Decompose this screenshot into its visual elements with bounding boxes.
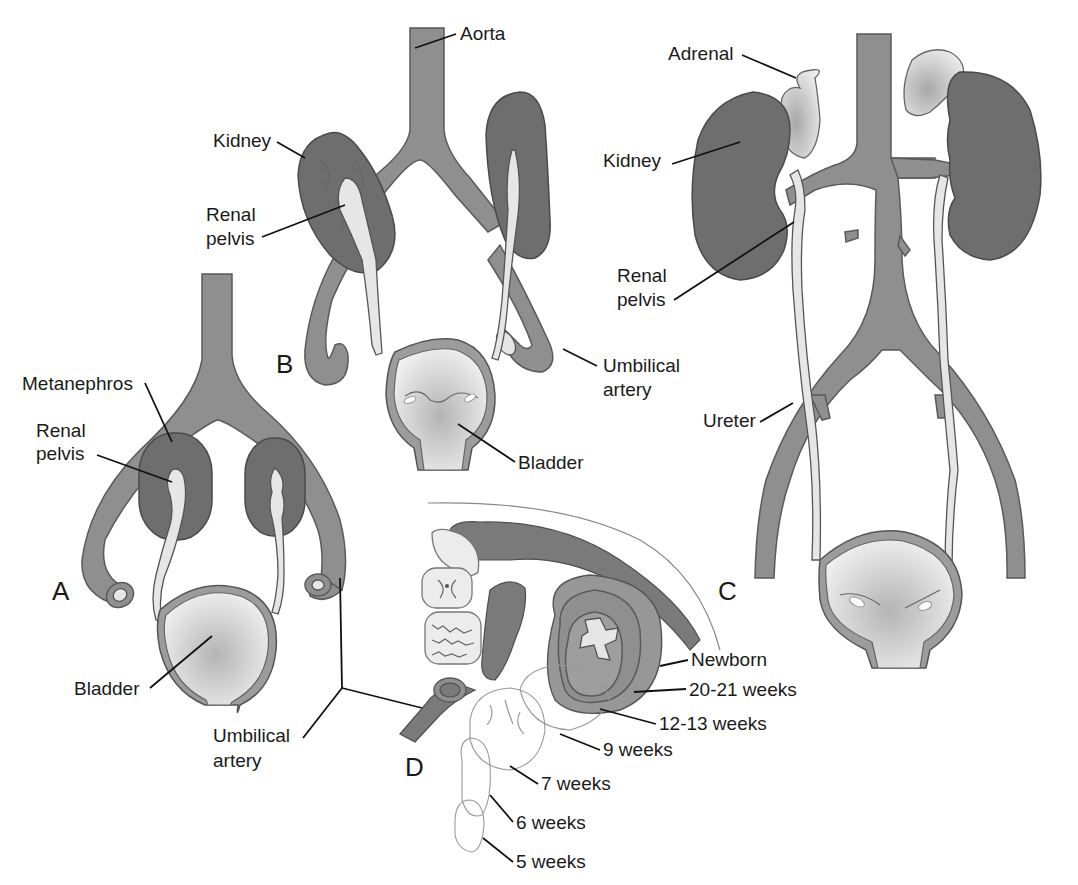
label-stage-12-13-weeks: 12-13 weeks [659,713,767,734]
panel-letter-a: A [52,576,70,606]
kidney-c-left [692,92,790,280]
ureter-c-left [790,170,820,560]
label-ureter: Ureter [703,410,756,431]
label-renal-pelvis-a-2: pelvis [36,443,85,464]
kidney-ascent-diagram: B Aorta Kidney Renal pelvis Umbilical ar… [0,0,1078,885]
label-adrenal: Adrenal [668,43,734,64]
aorta-a [82,274,346,605]
kidney-5-weeks [455,800,484,852]
umbilical-artery-b-left [305,255,352,385]
label-stage-6-weeks: 6 weeks [516,812,586,833]
vertebral-body [425,612,481,664]
label-aorta: Aorta [460,23,506,44]
panel-letter-d: D [405,752,424,782]
label-metanephros: Metanephros [22,373,133,394]
label-renal-pelvis-c-1: Renal [617,265,667,286]
bladder-b [386,339,495,470]
label-stage-7-weeks: 7 weeks [541,773,611,794]
label-bladder-b: Bladder [518,452,584,473]
label-stage-20-21-weeks: 20-21 weeks [689,679,797,700]
label-umbilical-artery-b-1: Umbilical [603,355,680,376]
label-umbilical-artery-b-2: artery [603,379,652,400]
label-renal-pelvis-c-2: pelvis [617,289,666,310]
bladder-c [819,531,962,668]
label-stage-9-weeks: 9 weeks [603,739,673,760]
label-kidney-c: Kidney [603,150,662,171]
label-bladder-a: Bladder [74,678,140,699]
label-renal-pelvis-b-2: pelvis [206,228,255,249]
label-umbilical-artery-a-2: artery [213,750,262,771]
panel-d: D Newborn 20-21 weeks 12-13 weeks 9 week… [400,503,797,872]
label-renal-pelvis-b-1: Renal [206,204,256,225]
panel-a: A Metanephros Renal pelvis Bladder Umbil… [22,274,430,771]
kidney-c-right [948,72,1041,260]
label-stage-newborn: Newborn [691,649,767,670]
panel-b: B Aorta Kidney Renal pelvis Umbilical ar… [206,23,680,473]
kidney-6-weeks [461,738,490,816]
bladder-a [158,586,277,713]
label-kidney-b: Kidney [213,130,272,151]
label-stage-5-weeks: 5 weeks [516,851,586,872]
renal-pelvis-a-right [270,468,284,614]
psoas-muscle [482,582,526,680]
panel-c: C Adrenal Kidney Renal pelvis Ureter [603,34,1041,668]
label-renal-pelvis-a-1: Renal [36,420,86,441]
panel-letter-b: B [276,349,293,379]
panel-letter-c: C [718,576,737,606]
kidney-7-weeks [470,688,545,770]
label-umbilical-artery-a-1: Umbilical [213,725,290,746]
